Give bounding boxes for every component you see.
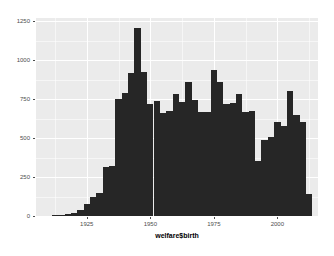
x-axis-title: welfare$birth — [36, 232, 318, 239]
histogram-plot: 025050075010001250 1925195019752000 welf… — [0, 0, 334, 256]
x-axis: 1925195019752000 — [0, 0, 334, 256]
x-tick-mark — [87, 217, 88, 219]
x-tick-mark — [277, 217, 278, 219]
x-tick-mark — [214, 217, 215, 219]
x-tick-label: 1925 — [67, 221, 107, 227]
x-tick-label: 1975 — [194, 221, 234, 227]
x-tick-label: 1950 — [130, 221, 170, 227]
x-tick-label: 2000 — [257, 221, 297, 227]
x-tick-mark — [150, 217, 151, 219]
